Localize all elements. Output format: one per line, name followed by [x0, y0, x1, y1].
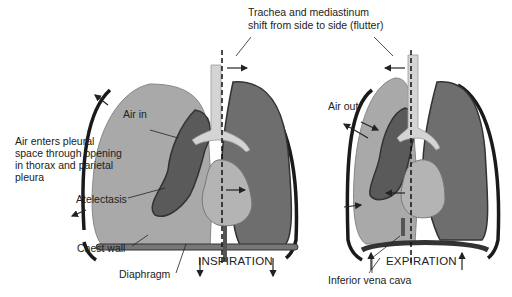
air-enters-label-2: space through opening [15, 147, 122, 159]
inferior-vena-cava-label: Inferior vena cava [328, 274, 411, 286]
expiration-caption: EXPIRATION [386, 255, 457, 267]
air-enters-label-3: in thorax and parietal [15, 159, 113, 171]
diaphragm-label: Diaphragm [119, 268, 170, 280]
air-in-label: Air in [123, 108, 147, 120]
trachea-label-line1: Trachea and mediastinum [248, 6, 369, 18]
trachea-label-line2: shift from side to side (flutter) [248, 19, 383, 31]
air-enters-label-1: Air enters pleural [15, 135, 94, 147]
expiration-thorax [344, 37, 499, 273]
inspiration-caption: INSPIRATION [198, 255, 273, 267]
diaphragm [96, 244, 298, 250]
atelectasis-label: Atelectasis [76, 193, 127, 205]
air-out-label: Air out [328, 100, 358, 112]
chest-wall-label: Chest wall [77, 242, 125, 254]
air-enters-label-4: pleura [15, 171, 44, 183]
